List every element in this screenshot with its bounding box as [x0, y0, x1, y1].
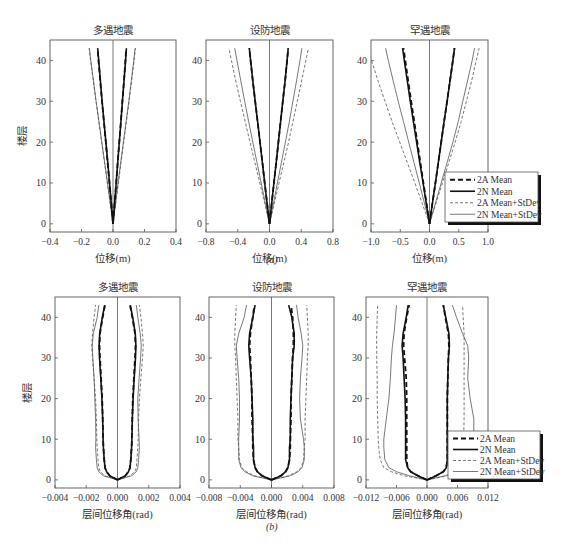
y-tick-label: 40: [192, 55, 202, 66]
y-tick-label: 20: [195, 393, 205, 404]
x-tick-label: 0.0: [107, 237, 119, 247]
legend-label: 2N Mean: [477, 187, 513, 197]
y-tick-label: 30: [36, 96, 46, 107]
x-axis-label: 层间位移角(rad): [82, 508, 153, 521]
legend-a: 2A Mean2N Mean2A Mean+StDev2N Mean+StDev: [445, 172, 542, 225]
y-tick-label: 0: [46, 474, 51, 485]
y-axis-label: 楼层: [16, 126, 28, 146]
x-tick-label: −1.0: [362, 237, 379, 247]
y-tick-label: 40: [352, 312, 362, 323]
x-tick-label: 0.006: [447, 493, 469, 503]
y-tick-label: 40: [357, 55, 367, 66]
y-tick-label: 10: [36, 177, 46, 188]
y-tick-label: 20: [41, 393, 51, 404]
x-tick-label: 0.000: [416, 493, 438, 503]
x-tick-label: 0.4: [170, 237, 182, 247]
x-tick-label: 0.5: [453, 237, 465, 247]
x-tick-label: 0.012: [477, 493, 499, 503]
legend-label: 2N Mean: [480, 445, 516, 455]
chart-panel-a3: 罕遇地震010203040−1.0−0.50.00.51.0位移(m): [357, 24, 494, 265]
y-tick-label: 20: [36, 137, 46, 148]
y-tick-label: 20: [192, 137, 202, 148]
x-tick-label: −0.006: [383, 493, 410, 503]
y-tick-label: 40: [36, 55, 46, 66]
x-tick-label: 1.0: [482, 237, 494, 247]
x-tick-label: 0.004: [169, 493, 191, 503]
legend-label: 2N Mean+StDev: [480, 467, 545, 477]
x-tick-label: 0.004: [292, 493, 314, 503]
x-tick-label: −0.4: [41, 237, 58, 247]
y-tick-label: 40: [195, 312, 205, 323]
chart-title: 多遇地震: [93, 24, 134, 36]
chart-title: 多遇地震: [98, 281, 139, 293]
y-tick-label: 40: [41, 312, 51, 323]
legend-label: 2A Mean: [480, 434, 515, 444]
figure-canvas: 多遇地震010203040−0.4−0.20.00.20.4位移(m)楼层 设防…: [0, 0, 565, 546]
x-tick-label: 0.000: [107, 493, 129, 503]
x-tick-label: −0.012: [353, 493, 380, 503]
chart-title: 罕遇地震: [407, 281, 448, 293]
x-tick-label: 0.002: [138, 493, 160, 503]
y-axis-label: 楼层: [21, 383, 33, 403]
x-tick-label: −0.8: [197, 237, 214, 247]
chart-panel-b2: 设防地震010203040−0.008−0.0040.0000.0040.008…: [195, 281, 345, 521]
y-tick-label: 30: [352, 352, 362, 363]
x-axis-label: 层间位移角(rad): [236, 508, 307, 521]
legend-label: 2A Mean+StDev: [480, 456, 544, 466]
x-tick-label: −0.002: [73, 493, 100, 503]
x-tick-label: 0.4: [295, 237, 307, 247]
chart-title: 设防地震: [250, 24, 291, 36]
x-tick-label: −0.008: [196, 493, 223, 503]
y-tick-label: 10: [357, 177, 367, 188]
x-axis-label: 位移(m): [412, 252, 448, 265]
x-tick-label: −0.2: [73, 237, 90, 247]
x-tick-label: −0.4: [229, 237, 246, 247]
y-tick-label: 0: [200, 474, 205, 485]
y-tick-label: 0: [197, 218, 202, 229]
chart-title: 罕遇地震: [410, 24, 451, 36]
y-tick-label: 20: [357, 137, 367, 148]
x-tick-label: 0.0: [424, 237, 436, 247]
y-tick-label: 0: [362, 218, 367, 229]
y-tick-label: 0: [41, 218, 46, 229]
x-tick-label: −0.004: [42, 493, 69, 503]
legend-label: 2N Mean+StDev: [477, 210, 542, 220]
y-tick-label: 30: [192, 96, 202, 107]
x-tick-label: 0.008: [323, 493, 345, 503]
chart-title: 设防地震: [252, 281, 293, 293]
x-axis-label: 层间位移角(rad): [392, 508, 463, 521]
legend-label: 2A Mean: [477, 175, 512, 185]
chart-panel-a1: 多遇地震010203040−0.4−0.20.00.20.4位移(m)楼层: [16, 24, 182, 265]
y-tick-label: 10: [195, 434, 205, 445]
legend-b: 2A Mean2N Mean2A Mean+StDev2N Mean+StDev: [448, 431, 545, 482]
x-tick-label: −0.004: [227, 493, 254, 503]
x-tick-label: 0.000: [261, 493, 283, 503]
y-tick-label: 30: [357, 96, 367, 107]
x-tick-label: 0.8: [327, 237, 339, 247]
chart-panel-b3: 罕遇地震010203040−0.012−0.0060.0000.0060.012…: [352, 281, 499, 521]
y-tick-label: 30: [41, 352, 51, 363]
y-tick-label: 30: [195, 352, 205, 363]
x-tick-label: 0.2: [139, 237, 151, 247]
chart-panel-b1: 多遇地震010203040−0.004−0.0020.0000.0020.004…: [21, 281, 191, 521]
y-tick-label: 10: [192, 177, 202, 188]
x-axis-label: 位移(m): [95, 252, 131, 265]
x-tick-label: −0.5: [392, 237, 409, 247]
y-tick-label: 10: [41, 434, 51, 445]
chart-panel-a2: 设防地震010203040−0.8−0.40.00.40.8位移(m): [192, 24, 339, 265]
y-tick-label: 0: [357, 474, 362, 485]
y-tick-label: 10: [352, 434, 362, 445]
x-tick-label: 0.0: [264, 237, 276, 247]
legend-label: 2A Mean+StDev: [477, 198, 541, 208]
subfigure-label-b: (b): [266, 521, 278, 532]
subfigure-label-a: (a): [266, 254, 278, 265]
y-tick-label: 20: [352, 393, 362, 404]
